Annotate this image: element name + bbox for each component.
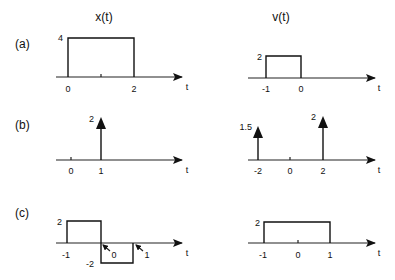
pointer-arrow [103,245,110,251]
row-label-a: (a) [15,37,30,51]
axis-label-t: t [378,165,381,175]
plot-b-x: 2 0 1 t [56,114,189,176]
plot-a-x: 4 0 2 t [56,33,189,94]
amplitude-label: 4 [58,33,63,43]
tick-label: 1 [327,250,332,260]
pulse [68,38,134,77]
plot-b-v: 1.5 2 -2 0 2 t [239,112,380,176]
tick-label: -2 [254,166,262,176]
impulse-label: 1.5 [239,122,252,132]
axis-label-t: t [186,165,189,175]
pulse [266,56,301,78]
tick-label: 0 [111,250,116,260]
tick-label: 0 [298,84,303,94]
tick-label: 0 [65,84,70,94]
impulse-label: 2 [311,112,316,122]
axis-label-t: t [186,82,189,92]
axis-label-t: t [186,248,189,258]
tick-label: 1 [98,166,103,176]
title-v: v(t) [272,10,289,24]
plot-c-x: 2 -2 -1 0 1 t [56,217,189,269]
amplitude-label: 2 [57,217,62,227]
row-label-b: (b) [15,118,30,132]
row-label-c: (c) [15,206,29,220]
axis-label-t: t [378,83,381,93]
neg-amplitude-label: -2 [86,259,94,269]
axis-label-t: t [378,248,381,258]
tick-label: 2 [320,166,325,176]
impulse-arrowhead-icon [96,117,106,129]
tick-label: 2 [131,84,136,94]
bipolar-pulse [67,221,133,263]
tick-label: 0 [295,250,300,260]
tick-label: 1 [144,250,149,260]
pulse [264,222,330,243]
signal-diagram: x(t) v(t) (a) (b) (c) 4 0 2 t 2 -1 0 t 2… [0,0,395,280]
amplitude-label: 2 [257,52,262,62]
tick-label: -1 [259,250,267,260]
tick-label: -1 [262,84,270,94]
amplitude-label: 2 [255,218,260,228]
impulse-arrowhead-icon [318,116,328,128]
pointer-arrow [136,245,143,251]
title-x: x(t) [95,10,112,24]
tick-label: 0 [68,166,73,176]
plot-c-v: 2 -1 0 1 t [248,218,381,260]
impulse-label: 2 [89,114,94,124]
impulse-arrowhead-icon [253,126,263,138]
tick-label: 0 [287,166,292,176]
tick-label: -1 [62,250,70,260]
plot-a-v: 2 -1 0 t [248,52,381,94]
